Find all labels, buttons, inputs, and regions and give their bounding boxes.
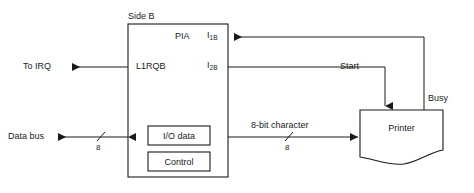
interrupt-1b-sub: 1B: [210, 34, 218, 41]
pia-side-label: Side B: [128, 12, 155, 21]
diagram-canvas: [0, 0, 474, 193]
character-bus-label: 8-bit character: [251, 121, 309, 130]
io-data-label: I/O data: [148, 126, 210, 145]
diagram-root: Side B PIA L1RQB I1B I2B I/O data Contro…: [0, 0, 474, 193]
control-label: Control: [148, 152, 210, 171]
interrupt-2b-sub: 2B: [210, 64, 218, 71]
pia-name-label: PIA: [175, 32, 190, 41]
character-bus-width-label: 8: [285, 144, 289, 152]
busy-label: Busy: [428, 94, 448, 103]
data-bus-width-label: 8: [96, 144, 100, 152]
pia-irq-pin-label: L1RQB: [136, 62, 166, 71]
pia-interrupt-input-2b: I2B: [207, 61, 217, 70]
printer-label: Printer: [360, 118, 443, 138]
wire-start: [228, 67, 385, 106]
to-irq-label: To IRQ: [23, 62, 51, 71]
wire-busy: [234, 37, 424, 110]
start-label: Start: [340, 62, 359, 71]
pia-interrupt-input-1b: I1B: [207, 31, 217, 40]
data-bus-label: Data bus: [8, 132, 44, 141]
